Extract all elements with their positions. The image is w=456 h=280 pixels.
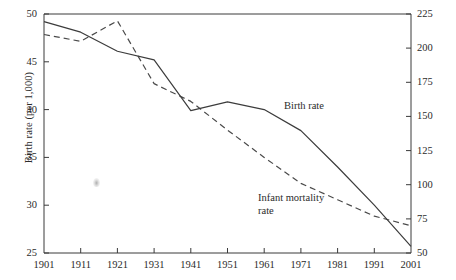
x-tick-label-1971: 1971: [281, 259, 321, 270]
y-tick-label-right-150: 150: [417, 110, 443, 121]
y-tick-label-left-45: 45: [11, 56, 37, 67]
x-tick-label-1941: 1941: [171, 259, 211, 270]
x-tick-label-1991: 1991: [354, 259, 394, 270]
y-tick-label-left-35: 35: [11, 151, 37, 162]
y-tick-label-left-50: 50: [11, 8, 37, 19]
series-annotation-birth-rate: Birth rate: [284, 100, 324, 113]
chart-plot-area: [0, 0, 456, 280]
y-tick-label-right-125: 125: [417, 145, 443, 156]
y-tick-label-right-200: 200: [417, 42, 443, 53]
y-axis-ticks-right: [406, 14, 411, 253]
y-tick-label-right-50: 50: [417, 247, 443, 258]
axis-frame: [44, 14, 411, 253]
series-line-infant-mortality: [44, 21, 411, 226]
x-tick-label-1951: 1951: [208, 259, 248, 270]
x-tick-label-1981: 1981: [318, 259, 358, 270]
y-tick-label-right-75: 75: [417, 213, 443, 224]
x-tick-label-2001: 2001: [391, 259, 431, 270]
series-line-birth-rate: [44, 22, 411, 247]
x-tick-label-1931: 1931: [134, 259, 174, 270]
x-tick-label-1901: 1901: [24, 259, 64, 270]
series-annotation-infant-mortality-line1: Infant mortality: [258, 192, 324, 205]
y-tick-label-right-225: 225: [417, 8, 443, 19]
x-tick-label-1961: 1961: [244, 259, 284, 270]
y-tick-label-right-100: 100: [417, 179, 443, 190]
y-tick-label-left-40: 40: [11, 104, 37, 115]
y-tick-label-left-30: 30: [11, 199, 37, 210]
x-axis-ticks: [81, 248, 375, 253]
chart-figure: Birth rate (per 1,000) Infant mortality …: [0, 0, 456, 280]
x-tick-label-1921: 1921: [97, 259, 137, 270]
y-axis-ticks-left: [44, 14, 49, 253]
y-tick-label-right-175: 175: [417, 76, 443, 87]
x-tick-label-1911: 1911: [61, 259, 101, 270]
series-annotation-infant-mortality-line2: rate: [258, 205, 324, 218]
scan-artifact-speck: [93, 178, 100, 187]
series-annotation-infant-mortality: Infant mortality rate: [258, 192, 324, 217]
y-tick-label-left-25: 25: [11, 247, 37, 258]
